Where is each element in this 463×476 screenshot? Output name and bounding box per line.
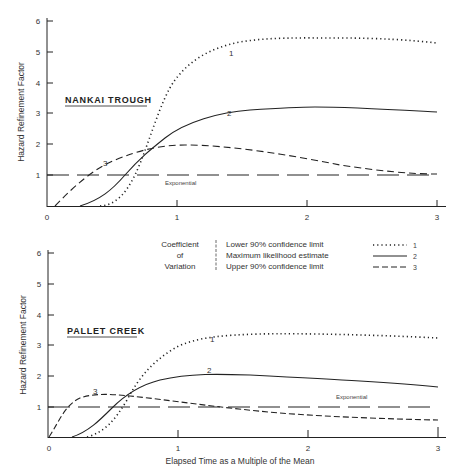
x-tick-label: 2 [305, 213, 310, 222]
y-tick-label: 3 [37, 341, 42, 350]
x-tick-label: 3 [435, 213, 440, 222]
legend-group-label: Variation [165, 262, 196, 271]
x-ticks [178, 427, 438, 437]
legend-item-label: Upper 90% confidence limit [226, 262, 324, 271]
y-tick-label: 3 [36, 109, 41, 118]
plot-pallet-creek: 1 2 3 4 5 6 0 1 2 3 Hazard Refinement Fa… [18, 249, 446, 466]
legend-item-id: 1 [413, 242, 417, 249]
plot-nankai-trough: 1 2 3 4 5 6 0 1 2 3 Hazard Refinement Fa… [16, 17, 446, 222]
x-tick-label: 1 [175, 213, 180, 222]
legend-item-label: Maximum likelihood estimate [226, 251, 329, 260]
legend-group-label: of [177, 251, 184, 260]
curve-1-label: 1 [229, 49, 234, 58]
legend: Coefficient of Variation Lower 90% confi… [161, 240, 417, 271]
curve-3-label: 3 [93, 387, 98, 396]
plot-title: NANKAI TROUGH [65, 95, 152, 105]
curve-1-lower-limit [87, 334, 438, 437]
curve-2-mle [72, 374, 438, 437]
exponential-label: Exponential [165, 180, 196, 186]
y-tick-label: 2 [36, 140, 41, 149]
curve-2-mle [80, 107, 437, 206]
x-tick-label: 3 [436, 444, 441, 453]
curve-1-label: 1 [210, 335, 215, 344]
y-tick-label: 6 [36, 17, 41, 26]
y-tick-label: 1 [36, 171, 41, 180]
x-tick-label: 0 [47, 444, 52, 453]
y-tick-label: 6 [37, 249, 42, 258]
y-axis-label: Hazard Refinement Factor [18, 295, 28, 395]
legend-group-label: Coefficient [161, 240, 199, 249]
y-tick-label: 2 [37, 372, 42, 381]
plot-title: PALLET CREEK [67, 326, 145, 336]
curve-3-label: 3 [103, 159, 108, 168]
y-tick-label: 4 [37, 311, 42, 320]
legend-item-id: 3 [413, 264, 417, 271]
x-axis-label: Elapsed Time as a Multiple of the Mean [166, 456, 315, 466]
legend-item-label: Lower 90% confidence limit [226, 240, 324, 249]
x-ticks [177, 200, 437, 206]
y-tick-label: 4 [36, 79, 41, 88]
exponential-label: Exponential [336, 394, 367, 400]
x-tick-label: 1 [176, 444, 181, 453]
curve-2-label: 2 [207, 366, 212, 375]
y-tick-label: 1 [37, 403, 42, 412]
curve-1-lower-limit [100, 38, 437, 206]
y-ticks [48, 253, 54, 407]
curve-3-upper-limit [49, 394, 438, 437]
curve-2-label: 2 [227, 109, 232, 118]
y-ticks [47, 21, 53, 175]
y-tick-label: 5 [37, 280, 42, 289]
figure: 1 2 3 4 5 6 0 1 2 3 Hazard Refinement Fa… [0, 0, 463, 476]
legend-item-id: 2 [413, 253, 417, 260]
y-tick-label: 5 [36, 48, 41, 57]
x-tick-label: 2 [306, 444, 311, 453]
x-tick-label: 0 [45, 213, 50, 222]
y-axis-label: Hazard Refinement Factor [16, 62, 26, 162]
